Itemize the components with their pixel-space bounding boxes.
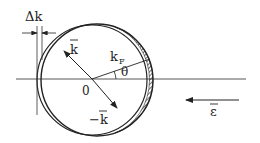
- field-label: ε: [210, 104, 217, 119]
- hatched-crescent: [110, 25, 155, 135]
- k-fermi-label: k: [110, 49, 118, 64]
- fermi-sphere-diagram: Δk k −k k F θ 0 ε: [0, 0, 260, 143]
- delta-k-label: Δk: [25, 9, 42, 24]
- neg-k-vector-label: −k: [89, 112, 108, 127]
- theta-arc: [114, 71, 116, 79]
- neg-k-vector: [92, 79, 117, 108]
- k-vector-label: k: [70, 42, 78, 57]
- origin-label: 0: [82, 84, 90, 98]
- k-vector: [64, 51, 92, 79]
- theta-label: θ: [121, 65, 128, 79]
